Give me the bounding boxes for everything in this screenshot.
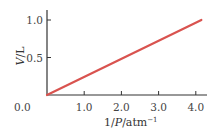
y-tick-label: 1.0 [26,14,43,26]
data-series [47,20,201,95]
x-tick-label: 3.0 [150,101,167,113]
x-tick-label: 4.0 [187,101,204,113]
x-tick-label: 1.0 [76,101,93,113]
y-axis-label: V/L [14,46,27,66]
x-ticks: 1.02.03.04.0 [76,91,204,113]
y-tick-label: 0.5 [26,52,43,64]
x-tick-label: 2.0 [113,101,130,113]
x-axis-label: 1/P/atm−1 [104,116,158,129]
data-line [47,20,201,95]
origin-label: 0.0 [14,101,31,113]
chart: 1.02.03.04.0 0.51.0 0.0 1/P/atm−1 V/L [0,0,219,130]
